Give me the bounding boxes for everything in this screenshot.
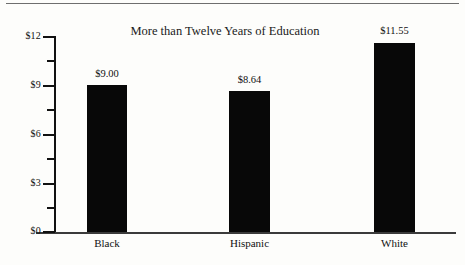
y-axis-label-0: $0 [5, 226, 41, 236]
y-axis-tick-major-12 [43, 36, 55, 38]
y-axis-label-6-wrap: $6 [0, 129, 41, 139]
y-axis-label-12: $12 [5, 31, 41, 41]
bar-value-white: $11.55 [364, 25, 425, 36]
bar-hispanic [229, 91, 270, 232]
category-label-white: White [364, 237, 425, 249]
bar-white [374, 43, 415, 232]
y-axis-tick-minor-1p5 [47, 207, 55, 209]
y-axis-tick-major-6 [43, 134, 55, 136]
bar-black [87, 85, 127, 232]
bar-value-hispanic: $8.64 [219, 74, 280, 85]
y-axis-label-9: $9 [5, 80, 41, 90]
y-axis-tick-minor-10p5 [47, 60, 55, 62]
y-axis-tick-major-3 [43, 183, 55, 185]
x-axis-line [36, 232, 456, 234]
bar-value-black: $9.00 [77, 68, 137, 79]
category-label-black: Black [77, 237, 137, 249]
y-axis-label-3: $3 [5, 178, 41, 188]
y-axis-tick-major-9 [43, 85, 55, 87]
y-axis-tick-minor-4p5 [47, 158, 55, 160]
y-axis-label-3-wrap: $3 [0, 178, 41, 188]
y-axis-label-9-wrap: $9 [0, 80, 41, 90]
plot-area: More than Twelve Years of Education $12 … [0, 0, 465, 265]
y-axis-tick-major-0 [43, 231, 55, 233]
y-axis-label-6: $6 [5, 129, 41, 139]
y-axis-tick-minor-7p5 [47, 109, 55, 111]
y-axis-label-12-wrap: $12 [0, 31, 41, 41]
category-label-hispanic: Hispanic [214, 237, 285, 249]
chart-title: More than Twelve Years of Education [100, 24, 350, 38]
y-axis-label-0-wrap: $0 [0, 226, 41, 236]
chart-screenshot: More than Twelve Years of Education $12 … [0, 0, 465, 265]
